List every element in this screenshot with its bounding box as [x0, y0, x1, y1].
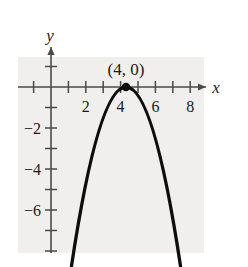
- y-tick-label-minus6: −6: [24, 202, 41, 219]
- x-tick-label-4: 4: [117, 98, 125, 115]
- vertex-annotation-label: (4, 0): [108, 60, 145, 79]
- y-tick-label-minus4: −4: [24, 161, 41, 178]
- y-tick-label-minus2: −2: [24, 120, 41, 137]
- parabola-graph: 2 4 6 8 −2 −4 −6 x y (4, 0): [0, 0, 248, 267]
- x-axis-label: x: [211, 78, 220, 97]
- y-axis-label: y: [44, 26, 54, 45]
- y-axis-arrow-icon: [47, 47, 54, 55]
- x-tick-label-2: 2: [82, 98, 90, 115]
- x-tick-label-8: 8: [186, 98, 194, 115]
- figure-container: 2 4 6 8 −2 −4 −6 x y (4, 0): [0, 0, 248, 267]
- x-tick-label-6: 6: [151, 98, 159, 115]
- vertex-point-marker: [122, 83, 131, 92]
